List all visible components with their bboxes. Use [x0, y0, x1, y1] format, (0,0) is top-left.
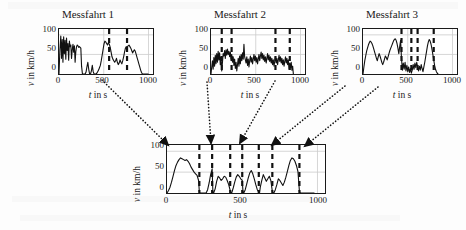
connector-arrow-3 — [240, 81, 275, 143]
connector-layer — [0, 0, 466, 230]
connector-arrow-4 — [272, 86, 345, 145]
figure-root: Messfahrt 1 v in km/h 100 50 0 0 500 100… — [0, 0, 466, 230]
connector-arrow-5 — [305, 87, 378, 146]
connector-arrow-2 — [207, 82, 211, 143]
connector-arrow-1 — [102, 80, 168, 145]
